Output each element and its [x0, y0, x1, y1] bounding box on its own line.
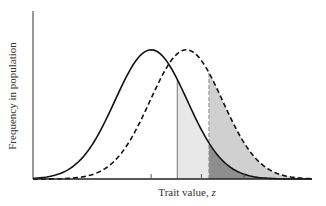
x-axis-label-text: Trait value,	[158, 186, 211, 198]
curve-original-solid	[33, 50, 312, 179]
shaded-region-light	[177, 79, 209, 179]
x-axis-label-variable: z	[211, 186, 215, 198]
y-axis-label: Frequency in population	[6, 26, 20, 166]
chart-canvas	[0, 0, 326, 206]
x-axis-label: Trait value, z	[132, 186, 242, 198]
